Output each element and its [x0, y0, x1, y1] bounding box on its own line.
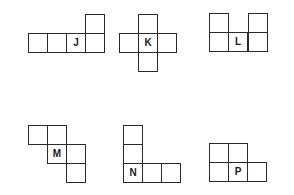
net-cell: [123, 144, 143, 164]
net-cell: [228, 143, 248, 163]
labeled-cell: M: [47, 144, 67, 164]
net-cell: [209, 162, 229, 182]
net-cell: [209, 32, 229, 52]
cell-letter-label: J: [73, 38, 79, 48]
net-cell: [47, 125, 67, 145]
cell-letter-label: N: [129, 168, 136, 178]
net-cell: [28, 125, 48, 145]
net-cell: [248, 32, 268, 52]
labeled-cell: P: [228, 162, 248, 182]
labeled-cell: J: [66, 33, 86, 53]
net-cell: [123, 125, 143, 145]
net-cell: [142, 163, 162, 183]
net-cell: [85, 33, 105, 53]
net-cell: [66, 163, 86, 183]
net-cell: [28, 33, 48, 53]
figure-canvas: J K L M N P: [0, 0, 294, 195]
labeled-cell: K: [138, 33, 158, 53]
net-cell: [119, 33, 139, 53]
labeled-cell: N: [123, 163, 143, 183]
net-cell: [66, 144, 86, 164]
net-cell: [138, 14, 158, 34]
cell-letter-label: M: [53, 149, 61, 159]
net-cell: [138, 52, 158, 72]
net-cell: [247, 162, 267, 182]
net-cell: [161, 163, 181, 183]
cell-letter-label: K: [144, 38, 151, 48]
net-cell: [248, 13, 268, 33]
cell-letter-label: L: [235, 37, 241, 47]
labeled-cell: L: [228, 32, 248, 52]
cell-letter-label: P: [235, 167, 242, 177]
net-cell: [47, 33, 67, 53]
net-cell: [157, 33, 177, 53]
net-cell: [85, 14, 105, 34]
net-cell: [209, 143, 229, 163]
net-cell: [209, 13, 229, 33]
